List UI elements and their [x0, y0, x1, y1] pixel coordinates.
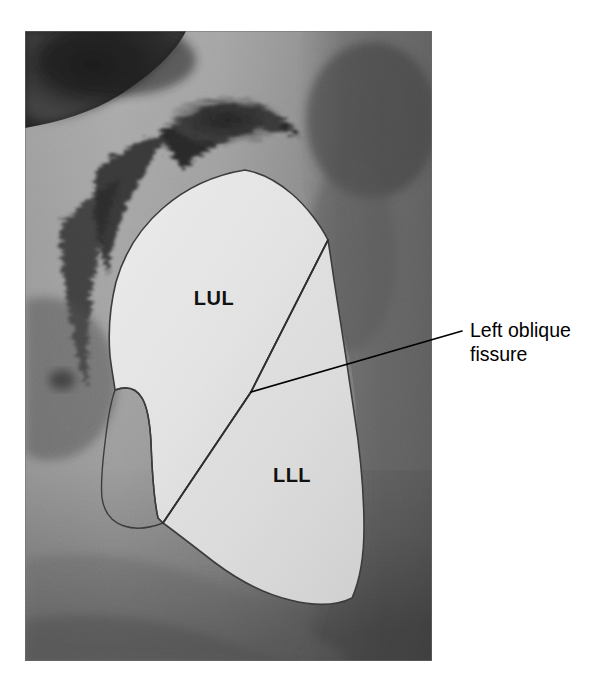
anatomy-figure: LUL LLL Left oblique fissure	[0, 0, 601, 683]
film-grain	[25, 31, 432, 661]
lll-label: LLL	[273, 464, 311, 486]
chest-photograph	[25, 24, 438, 661]
lul-label: LUL	[194, 287, 234, 309]
callout-label-line2: fissure	[470, 343, 527, 365]
figure-container: LUL LLL Left oblique fissure	[0, 0, 601, 683]
callout-label-line1: Left oblique	[470, 319, 571, 341]
